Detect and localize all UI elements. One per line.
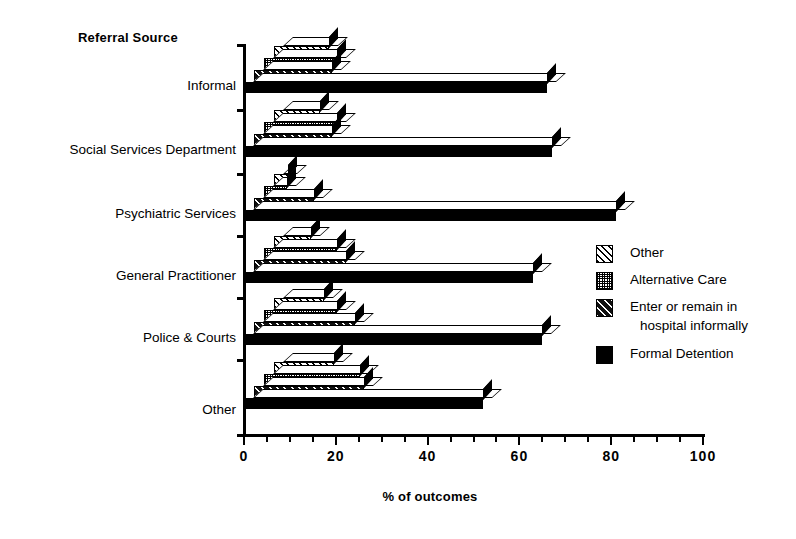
x-axis-tick-label: 0 (240, 448, 249, 464)
x-axis-minor-tick (358, 436, 360, 442)
legend-swatch (596, 245, 613, 263)
bar-top-face (253, 325, 561, 334)
bar-top-face (283, 289, 343, 298)
x-axis-tick-label: 40 (419, 448, 437, 464)
x-axis-minor-tick (633, 436, 635, 442)
bar-front-face (244, 82, 547, 93)
x-axis-minor-tick (495, 436, 497, 442)
legend-swatch (596, 272, 613, 290)
legend-item: Enter or remain inhospital informally (596, 296, 796, 343)
x-axis-minor-tick (266, 436, 268, 442)
x-axis-minor-tick (564, 436, 566, 442)
legend-label: Formal Detention (630, 345, 734, 362)
y-axis-tick (237, 359, 244, 362)
legend-item: Alternative Care (596, 269, 796, 296)
category-label: Psychiatric Services (22, 207, 236, 221)
bar-front-face (244, 146, 552, 157)
bar-top-face (283, 227, 330, 236)
bar-formal-detention (244, 272, 533, 283)
x-axis-major-tick (427, 436, 429, 445)
x-axis-minor-tick (450, 436, 452, 442)
bar-top-face (253, 389, 502, 398)
y-axis-tick (237, 109, 244, 112)
legend-swatch (596, 346, 613, 364)
bar-formal-detention (244, 210, 616, 221)
bar-formal-detention (244, 398, 483, 409)
bar-top-face (283, 37, 348, 46)
y-axis-tick (237, 297, 244, 300)
x-axis-minor-tick (679, 436, 681, 442)
bar-formal-detention (244, 82, 547, 93)
y-axis-tick (237, 173, 244, 176)
bar-top-face (283, 101, 339, 110)
x-axis-minor-tick (473, 436, 475, 442)
y-axis-tick (237, 44, 244, 47)
x-axis-major-tick (518, 436, 520, 445)
x-axis-tick-label: 60 (511, 448, 529, 464)
category-label: Informal (22, 79, 236, 93)
legend-label: Enter or remain in (630, 298, 737, 315)
category-label: Social Services Department (22, 143, 236, 157)
bar-top-face (253, 137, 571, 146)
legend-label: Alternative Care (630, 271, 727, 288)
x-axis-tick-label: 20 (327, 448, 345, 464)
bar-front-face (244, 334, 542, 345)
category-label: Other (22, 403, 236, 417)
x-axis-tick-label: 100 (690, 448, 716, 464)
bar-top-face (253, 263, 552, 272)
category-label: Police & Courts (22, 331, 236, 345)
legend-swatch (596, 299, 613, 317)
bar-top-face (253, 73, 566, 82)
x-axis-major-tick (610, 436, 612, 445)
x-axis-minor-tick (404, 436, 406, 442)
plot-area (244, 44, 703, 434)
x-axis-minor-tick (541, 436, 543, 442)
x-axis-minor-tick (289, 436, 291, 442)
x-axis-major-tick (702, 436, 704, 445)
x-axis-tick-label: 80 (602, 448, 620, 464)
bar-top-face (253, 201, 635, 210)
chart-legend: OtherAlternative CareEnter or remain inh… (596, 242, 796, 370)
legend-item: Other (596, 242, 796, 269)
category-label: General Practitioner (22, 269, 236, 283)
bar-formal-detention (244, 334, 542, 345)
legend-item: Formal Detention (596, 343, 796, 370)
legend-label: Other (630, 244, 664, 261)
bar-front-face (244, 398, 483, 409)
bar-front-face (244, 272, 533, 283)
bar-formal-detention (244, 146, 552, 157)
legend-label-continuation: hospital informally (640, 317, 748, 334)
bar-chart: Referral Source InformalSocial Services … (0, 0, 796, 539)
x-axis-minor-tick (381, 436, 383, 442)
x-axis-minor-tick (312, 436, 314, 442)
bar-front-face (244, 210, 616, 221)
x-axis-title: % of outcomes (382, 489, 477, 504)
x-axis-minor-tick (587, 436, 589, 442)
x-axis-minor-tick (656, 436, 658, 442)
category-axis-labels: InformalSocial Services DepartmentPsychi… (20, 0, 236, 539)
y-axis-tick (237, 235, 244, 238)
x-axis-major-tick (335, 436, 337, 445)
x-axis-major-tick (243, 436, 245, 445)
